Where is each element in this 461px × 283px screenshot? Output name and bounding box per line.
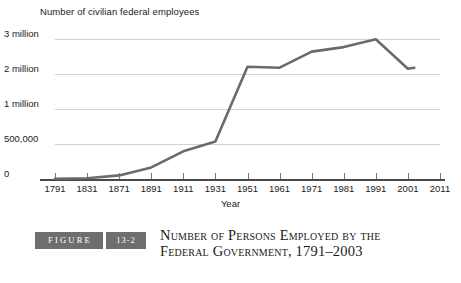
chart-area: Number of civilian federal employees 050…	[0, 0, 461, 225]
figure-caption-row: FIGURE 13-2 Number of Persons Employed b…	[0, 232, 461, 282]
figure-caption-line-1: Number of Persons Employed by the	[160, 227, 380, 243]
figure-badge-number: 13-2	[106, 232, 146, 249]
figure-badge-label: FIGURE	[35, 232, 103, 249]
figure-caption-line-2: Federal Government, 1791–2003	[160, 243, 380, 259]
figure-container: Number of civilian federal employees 050…	[0, 0, 461, 283]
data-series-line	[0, 0, 461, 225]
figure-caption: Number of Persons Employed by the Federa…	[160, 227, 380, 259]
